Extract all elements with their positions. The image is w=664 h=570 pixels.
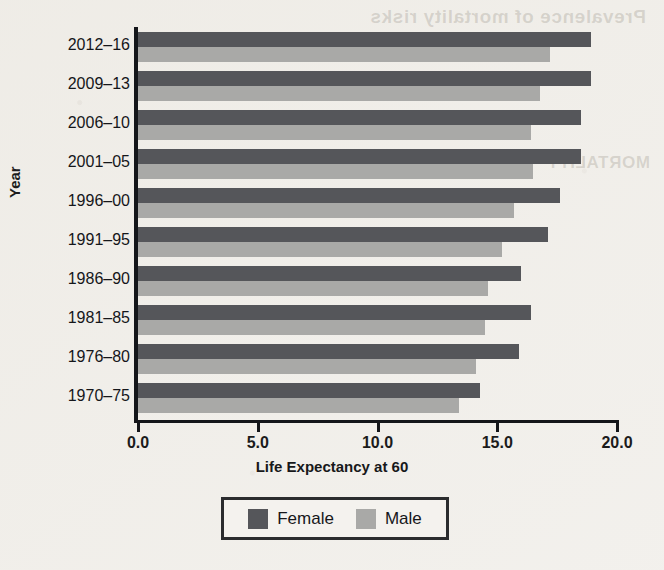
x-axis-tick-label: 15.0 (482, 434, 513, 452)
bar-male (138, 86, 540, 101)
y-axis-category-label: 1986–90 (68, 270, 130, 288)
bar-group (138, 149, 617, 188)
x-axis-title: Life Expectancy at 60 (0, 458, 664, 475)
y-axis-category-label: 1976–80 (68, 348, 130, 366)
legend-label: Male (385, 509, 422, 529)
y-axis-category-label: 2009–13 (68, 75, 130, 93)
bar-male (138, 320, 485, 335)
bar-group (138, 188, 617, 227)
bar-male (138, 398, 459, 413)
bar-female (138, 71, 591, 86)
bar-male (138, 47, 550, 62)
bar-male (138, 359, 476, 374)
bar-female (138, 188, 560, 203)
bar-female (138, 344, 519, 359)
x-axis-tick-label: 5.0 (247, 434, 269, 452)
y-axis-category-label: 1970–75 (68, 387, 130, 405)
bar-male (138, 242, 502, 257)
x-axis-tick-label: 0.0 (127, 434, 149, 452)
bar-female (138, 110, 581, 125)
x-axis-tick-label: 10.0 (362, 434, 393, 452)
bar-group (138, 266, 617, 305)
chart-legend: FemaleMale (221, 497, 449, 540)
y-axis-title: Year (6, 166, 23, 198)
bar-group (138, 383, 617, 422)
y-axis-category-label: 2001–05 (68, 153, 130, 171)
bar-female (138, 32, 591, 47)
legend-entry-female: Female (248, 509, 334, 529)
y-axis-category-label: 1991–95 (68, 231, 130, 249)
legend-entry-male: Male (356, 509, 422, 529)
bar-group (138, 32, 617, 71)
legend-swatch-icon (248, 509, 268, 529)
bar-group (138, 110, 617, 149)
y-axis-category-label: 2012–16 (68, 36, 130, 54)
bar-female (138, 383, 480, 398)
bar-female (138, 305, 531, 320)
bar-group (138, 227, 617, 266)
bar-male (138, 203, 514, 218)
bar-group (138, 71, 617, 110)
plot-area (138, 30, 617, 420)
bar-female (138, 227, 548, 242)
y-axis-category-label: 1981–85 (68, 309, 130, 327)
bar-female (138, 149, 581, 164)
bar-group (138, 305, 617, 344)
legend-label: Female (277, 509, 334, 529)
bar-male (138, 164, 533, 179)
y-axis-category-label: 1996–00 (68, 192, 130, 210)
bar-male (138, 125, 531, 140)
bar-female (138, 266, 521, 281)
y-axis-category-label: 2006–10 (68, 114, 130, 132)
bar-chart: Year 0.05.010.015.020.0 Life Expectancy … (0, 0, 664, 570)
x-axis-tick-label: 20.0 (601, 434, 632, 452)
bar-male (138, 281, 488, 296)
legend-swatch-icon (356, 509, 376, 529)
bar-group (138, 344, 617, 383)
